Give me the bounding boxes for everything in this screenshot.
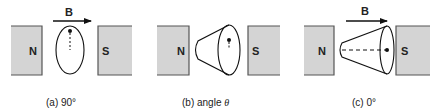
north-magnet: N: [157, 26, 189, 75]
panel-a: N S B (a) 90°: [11, 6, 132, 108]
precession-cone: [340, 26, 394, 74]
moment-dot-icon: [68, 29, 72, 33]
north-label: N: [29, 45, 37, 57]
field-label: B: [361, 5, 369, 17]
south-magnet: S: [248, 26, 280, 75]
north-label: N: [318, 45, 326, 57]
moment-dot-icon: [227, 38, 231, 42]
south-label: S: [401, 45, 408, 57]
south-label: S: [102, 45, 109, 57]
north-label: N: [177, 45, 185, 57]
panel-b: N S (b) angle θ: [157, 25, 280, 108]
north-magnet: N: [11, 26, 42, 75]
field-arrow: B: [346, 5, 387, 21]
panel-c: N S B (c) 0°: [304, 5, 430, 108]
field-label: B: [65, 6, 73, 18]
precession-cone: [196, 25, 241, 75]
spin-ellipse: [56, 26, 84, 74]
south-magnet: S: [396, 26, 430, 75]
caption-c: (c) 0°: [352, 97, 376, 108]
moment-dot-icon: [385, 48, 389, 52]
field-arrow: B: [53, 6, 91, 21]
south-magnet: S: [98, 26, 132, 75]
south-label: S: [252, 45, 259, 57]
magnetic-orientation-diagram: N S B (a) 90° N S: [0, 0, 437, 112]
caption-a: (a) 90°: [46, 97, 76, 108]
caption-b: (b) angle θ: [182, 97, 229, 108]
north-magnet: N: [304, 26, 334, 75]
